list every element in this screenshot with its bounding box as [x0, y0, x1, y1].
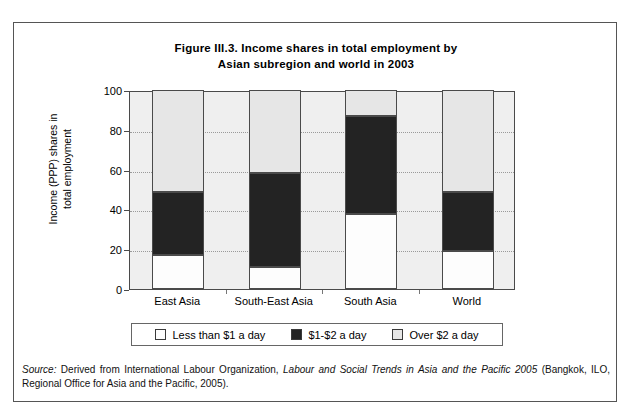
y-tick-mark [124, 290, 129, 291]
source-note: Source: Derived from International Labou… [22, 363, 610, 391]
bar-group [249, 92, 301, 289]
source-text-before: Derived from International Labour Organi… [56, 364, 283, 375]
y-axis-title-line-1: Income (PPP) shares in [46, 79, 60, 259]
y-tick-label: 80 [86, 126, 122, 137]
legend-item[interactable]: $1-$2 a day [291, 329, 366, 341]
y-tick-label: 60 [86, 166, 122, 177]
y-axis-title-line-2: total employment [60, 79, 74, 259]
legend-swatch-icon [155, 329, 166, 340]
bar-segment[interactable] [249, 267, 301, 289]
legend-item[interactable]: Over $2 a day [392, 329, 478, 341]
x-tick-mark [226, 290, 227, 294]
source-label: Source: [22, 364, 56, 375]
y-axis-title: Income (PPP) shares in total employment [46, 79, 74, 259]
bar-group [345, 92, 397, 289]
legend-label: Less than $1 a day [172, 329, 265, 341]
bar-segment[interactable] [249, 173, 301, 268]
bar-segment[interactable] [249, 90, 301, 173]
bar-segment[interactable] [442, 90, 494, 191]
y-tick-label: 100 [86, 86, 122, 97]
x-tick-mark [322, 290, 323, 294]
figure-frame: Figure III.3. Income shares in total emp… [13, 22, 617, 402]
legend-swatch-icon [291, 329, 302, 340]
bar-segment[interactable] [152, 90, 204, 191]
chart-title-line-1: Figure III.3. Income shares in total emp… [14, 40, 618, 56]
bar-segment[interactable] [152, 192, 204, 256]
bar-group [152, 92, 204, 289]
x-tick-label-world: World [407, 295, 527, 307]
bar-group [442, 92, 494, 289]
legend-item[interactable]: Less than $1 a day [155, 329, 265, 341]
legend-swatch-icon [392, 329, 403, 340]
bar-segment[interactable] [345, 214, 397, 289]
bar-segment[interactable] [442, 251, 494, 289]
bar-segment[interactable] [345, 116, 397, 215]
y-tick-label: 20 [86, 245, 122, 256]
bar-segment[interactable] [345, 90, 397, 116]
chart-legend: Less than $1 a day$1-$2 a dayOver $2 a d… [131, 323, 503, 346]
legend-label: $1-$2 a day [308, 329, 366, 341]
source-publication-title: Labour and Social Trends in Asia and the… [283, 364, 537, 375]
legend-label: Over $2 a day [409, 329, 478, 341]
chart-title: Figure III.3. Income shares in total emp… [14, 40, 618, 72]
bar-segment[interactable] [152, 255, 204, 289]
chart-title-line-2: Asian subregion and world in 2003 [14, 56, 618, 72]
x-tick-mark [419, 290, 420, 294]
y-tick-label: 40 [86, 205, 122, 216]
plot-area [129, 91, 515, 290]
bar-segment[interactable] [442, 192, 494, 252]
